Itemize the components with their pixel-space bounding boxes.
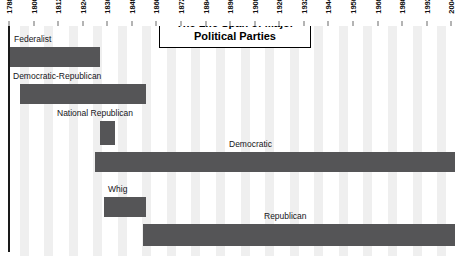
tick-mark xyxy=(427,21,428,26)
year-tick-1968: 1968 xyxy=(373,0,383,26)
grid-band xyxy=(388,26,397,256)
bar-label-federalist: Federalist xyxy=(14,34,51,44)
year-tick-1812: 1812 xyxy=(53,0,63,26)
year-tick-1788: 1788 xyxy=(4,0,14,26)
year-tick-2004: 2004 xyxy=(446,0,456,26)
tick-mark xyxy=(402,21,403,26)
tick-mark xyxy=(230,21,231,26)
year-label: 1932 xyxy=(300,0,309,14)
grid-band xyxy=(167,26,176,256)
grid-band xyxy=(314,26,323,256)
year-label: 1968 xyxy=(374,0,383,14)
bar-democratic-republican xyxy=(20,84,146,104)
year-label: 1944 xyxy=(324,0,333,14)
grid-band xyxy=(339,26,348,256)
year-tick-1956: 1956 xyxy=(348,0,358,26)
year-tick-1884: 1884 xyxy=(201,0,211,26)
year-label: 1812 xyxy=(54,0,63,14)
tick-mark xyxy=(279,21,280,26)
tick-mark xyxy=(451,21,452,26)
year-tick-1944: 1944 xyxy=(323,0,333,26)
year-label: 1980 xyxy=(398,0,407,14)
year-label: 1836 xyxy=(103,0,112,14)
tick-mark xyxy=(304,21,305,26)
tick-mark xyxy=(378,21,379,26)
tick-mark xyxy=(353,21,354,26)
year-label: 1824 xyxy=(79,0,88,14)
grid-band xyxy=(216,26,225,256)
plot-area: FederalistDemocratic-RepublicanNational … xyxy=(0,26,464,256)
year-label: 1884 xyxy=(202,0,211,14)
title-line-2: Political Parties xyxy=(194,30,276,42)
grid-band xyxy=(142,26,151,256)
tick-mark xyxy=(83,21,84,26)
tick-mark xyxy=(34,21,35,26)
grid-band xyxy=(413,26,422,256)
tick-mark xyxy=(181,21,182,26)
tick-mark xyxy=(156,21,157,26)
bar-label-whig: Whig xyxy=(108,184,127,194)
grid-band xyxy=(290,26,299,256)
tick-mark xyxy=(328,21,329,26)
year-tick-1800: 1800 xyxy=(29,0,39,26)
bar-federalist xyxy=(10,47,100,67)
year-tick-1992: 1992 xyxy=(422,0,432,26)
bar-label-democratic: Democratic xyxy=(229,139,272,149)
grid-band xyxy=(191,26,200,256)
year-tick-1860: 1860 xyxy=(151,0,161,26)
bar-label-republican: Republican xyxy=(264,211,307,221)
tick-mark xyxy=(58,21,59,26)
year-tick-1872: 1872 xyxy=(176,0,186,26)
year-label: 1860 xyxy=(152,0,161,14)
year-label: 1908 xyxy=(251,0,260,14)
year-label: 1992 xyxy=(423,0,432,14)
year-tick-1824: 1824 xyxy=(78,0,88,26)
bar-label-national-republican: National Republican xyxy=(57,108,133,118)
year-label: 1848 xyxy=(128,0,137,14)
grid-band xyxy=(118,26,127,256)
grid-band xyxy=(437,26,446,256)
tick-mark xyxy=(9,21,10,26)
bar-republican xyxy=(143,224,455,246)
year-label: 1920 xyxy=(275,0,284,14)
bar-whig xyxy=(104,197,146,217)
year-label: 1788 xyxy=(5,0,14,14)
year-tick-1932: 1932 xyxy=(299,0,309,26)
tick-mark xyxy=(107,21,108,26)
year-tick-1896: 1896 xyxy=(225,0,235,26)
year-tick-1980: 1980 xyxy=(397,0,407,26)
year-label: 1800 xyxy=(30,0,39,14)
year-label: 1956 xyxy=(349,0,358,14)
bar-democratic xyxy=(95,152,455,172)
year-tick-1920: 1920 xyxy=(274,0,284,26)
tick-mark xyxy=(255,21,256,26)
grid-band xyxy=(363,26,372,256)
year-label: 2004 xyxy=(447,0,456,14)
bar-label-democratic-republican: Democratic-Republican xyxy=(13,71,101,81)
year-axis-header: 1788180018121824183618481860187218841896… xyxy=(0,0,464,26)
year-tick-1908: 1908 xyxy=(250,0,260,26)
bar-national-republican xyxy=(100,121,115,145)
y-axis-line xyxy=(8,26,10,252)
timeline-chart: 1788180018121824183618481860187218841896… xyxy=(0,0,464,256)
year-label: 1896 xyxy=(226,0,235,14)
year-tick-1848: 1848 xyxy=(127,0,137,26)
tick-mark xyxy=(132,21,133,26)
year-label: 1872 xyxy=(177,0,186,14)
year-tick-1836: 1836 xyxy=(102,0,112,26)
tick-mark xyxy=(206,21,207,26)
